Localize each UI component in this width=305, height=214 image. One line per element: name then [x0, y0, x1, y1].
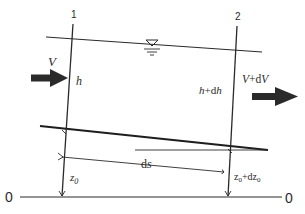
outflow-arrow-icon	[252, 87, 298, 106]
z0-dz0-label: z0+dz0	[234, 171, 261, 184]
inflow-arrow-icon	[31, 69, 68, 87]
channel-flow-diagram: 1 2 V h V+dV h+dh ds z0 z0+dz0 0 0	[0, 0, 305, 214]
depth-in-label: h	[76, 74, 82, 88]
datum-left-label: 0	[5, 189, 13, 205]
channel-bed-line	[40, 126, 268, 150]
ds-label: ds	[141, 157, 152, 171]
z0-top-tick	[62, 130, 66, 134]
depth-out-label: h+dh	[199, 84, 222, 96]
ds-left-tick	[58, 153, 63, 160]
velocity-out-label: V+dV	[242, 73, 270, 85]
z0-label: z0	[69, 171, 78, 186]
section-1-label: 1	[71, 9, 77, 20]
free-surface-icon	[144, 40, 160, 55]
datum-right-label: 0	[285, 190, 293, 206]
section-2-label: 2	[235, 11, 241, 22]
velocity-in-label: V	[48, 54, 58, 69]
